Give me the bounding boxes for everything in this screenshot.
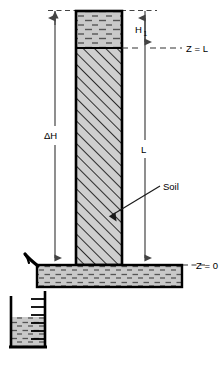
vertical-column bbox=[76, 11, 122, 265]
soil-column bbox=[76, 48, 122, 265]
water-column bbox=[76, 11, 122, 48]
dimension-label-l: L bbox=[141, 144, 146, 155]
dimension-label-h1: H bbox=[135, 24, 142, 35]
datum-label-z-equals-zero: Z = 0 bbox=[196, 260, 218, 271]
reservoir bbox=[37, 265, 182, 287]
reservoir-water bbox=[37, 265, 182, 287]
diagram-canvas: Z = L H 1 L ΔH Soil bbox=[0, 0, 224, 371]
cylinder-water bbox=[11, 317, 45, 347]
dimension-label-delta-h: ΔH bbox=[44, 130, 57, 141]
dimension-label-h1-subscript: 1 bbox=[144, 30, 148, 37]
permeability-test-diagram: Z = L H 1 L ΔH Soil bbox=[0, 0, 224, 371]
datum-label-z-equals-l: Z = L bbox=[186, 43, 208, 54]
soil-label: Soil bbox=[163, 181, 179, 192]
